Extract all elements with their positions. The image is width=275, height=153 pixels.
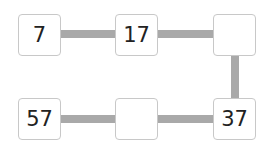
connector-top-left-to-middle <box>61 30 116 38</box>
connector-right-vertical <box>231 56 239 99</box>
connector-top-middle-to-right <box>158 30 214 38</box>
connector-bottom-middle-to-left <box>61 115 116 123</box>
box-bottom-left: 57 <box>18 98 61 140</box>
box-top-left: 7 <box>18 14 61 56</box>
connector-bottom-right-to-middle <box>158 115 214 123</box>
box-bottom-right: 37 <box>213 98 256 140</box>
box-top-right <box>213 14 256 56</box>
box-value: 7 <box>33 23 46 47</box>
box-bottom-middle <box>115 98 158 140</box>
box-value: 37 <box>221 107 248 131</box>
box-top-middle: 17 <box>115 14 158 56</box>
box-value: 57 <box>26 107 53 131</box>
box-value: 17 <box>123 23 150 47</box>
